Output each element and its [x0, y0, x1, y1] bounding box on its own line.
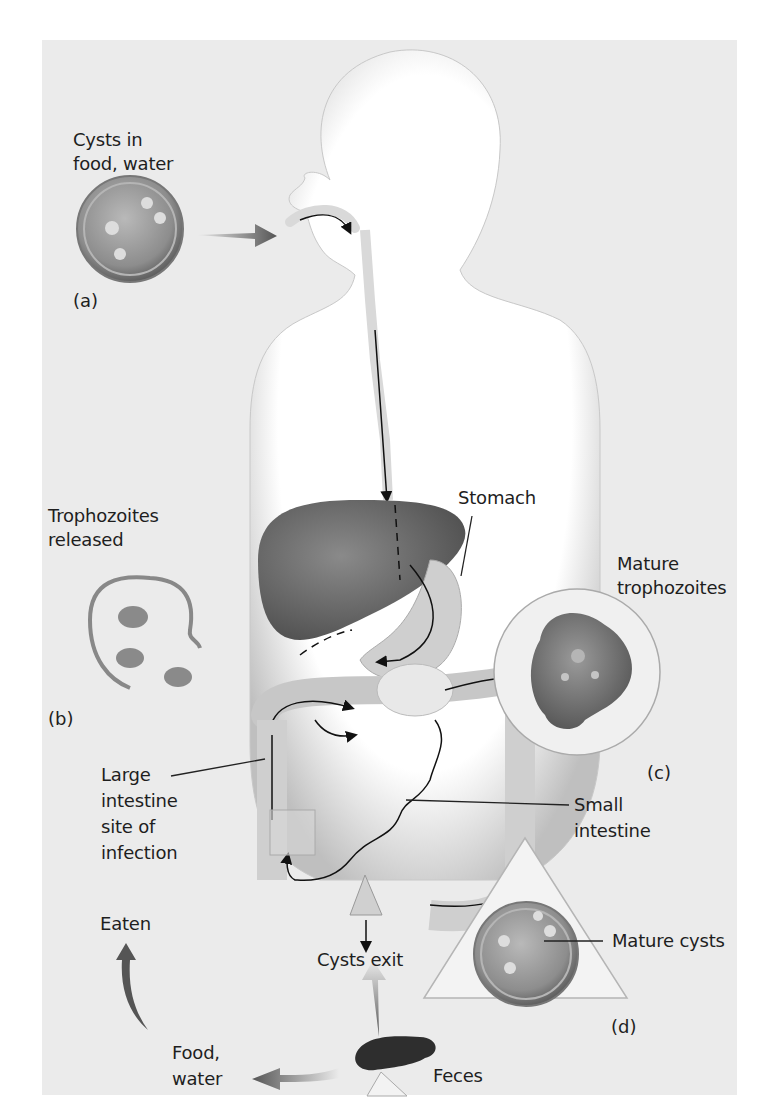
site-of-infection-box [270, 810, 315, 855]
label-mature-cysts: Mature cysts [612, 929, 725, 953]
panel-tag-a: (a) [73, 290, 98, 311]
label-stomach: Stomach [458, 486, 536, 510]
to-food-water-arrow [252, 1068, 339, 1090]
label-feces: Feces [433, 1064, 483, 1088]
label-cysts-in-food-water: Cysts in food, water [73, 128, 173, 176]
panel-tag-b: (b) [48, 708, 73, 729]
label-food-water: Food, water [172, 1040, 222, 1092]
mature-trophozoite-illustration [494, 589, 660, 755]
label-large-intestine: Large intestine site of infection [101, 762, 178, 866]
ingestion-arrow [196, 224, 277, 247]
panel-tag-c: (c) [647, 762, 671, 783]
panel-tag-d: (d) [611, 1016, 636, 1037]
cyst-in-food-illustration [77, 176, 183, 282]
label-small-intestine: Small intestine [574, 792, 651, 844]
trophozoites-released-illustration [90, 577, 200, 688]
label-cysts-exit: Cysts exit [317, 948, 403, 972]
eaten-arrow [116, 943, 148, 1030]
duodenum [377, 664, 453, 716]
human-body-silhouette [250, 50, 600, 880]
feces-illustration [355, 1036, 436, 1096]
label-trophozoites-released: Trophozoites released [48, 504, 159, 552]
rectum-cyst-marker [350, 875, 382, 915]
label-eaten: Eaten [100, 912, 151, 936]
label-mature-trophozoites: Mature trophozoites [617, 552, 727, 600]
